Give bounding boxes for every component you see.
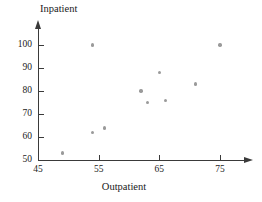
y-tick-label: 80 [6, 86, 32, 96]
y-tick-label: 100 [6, 40, 32, 50]
data-point [91, 131, 94, 134]
data-point [146, 101, 149, 104]
x-axis-title: Outpatient [0, 182, 248, 193]
y-tick-label: 60 [6, 132, 32, 142]
data-point [158, 71, 161, 74]
data-point [139, 89, 142, 92]
y-tick-label: 90 [6, 63, 32, 73]
data-point [61, 151, 64, 154]
y-axis-arrow-icon [35, 20, 41, 29]
x-tick-mark [159, 155, 160, 161]
y-tick-label: 70 [6, 109, 32, 119]
x-tick-label: 75 [207, 165, 233, 175]
y-axis-title: Inpatient [40, 4, 77, 15]
y-axis-line [38, 28, 39, 161]
data-point [103, 126, 106, 129]
data-point [194, 82, 197, 85]
plot-area: Inpatient Outpatient 5060708090100 45556… [0, 0, 262, 202]
y-tick-label: 50 [6, 155, 32, 165]
scatter-plot-figure: Inpatient Outpatient 5060708090100 45556… [0, 0, 262, 202]
x-tick-label: 55 [86, 165, 112, 175]
x-axis-line [38, 160, 245, 161]
data-point [164, 99, 167, 102]
x-axis-arrow-icon [244, 157, 253, 163]
x-tick-label: 45 [25, 165, 51, 175]
y-tick-mark [38, 160, 44, 161]
x-tick-label: 65 [146, 165, 172, 175]
data-point [218, 43, 221, 46]
y-tick-mark [38, 91, 44, 92]
y-tick-mark [38, 68, 44, 69]
x-tick-mark [220, 155, 221, 161]
y-tick-mark [38, 137, 44, 138]
y-tick-mark [38, 114, 44, 115]
x-tick-mark [99, 155, 100, 161]
data-point [91, 43, 94, 46]
y-tick-mark [38, 45, 44, 46]
